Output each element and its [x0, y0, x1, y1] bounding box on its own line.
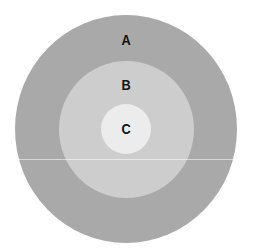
label-b: B	[113, 77, 139, 93]
label-a: A	[113, 32, 139, 48]
label-c: C	[113, 121, 139, 137]
scan-artifact-line	[18, 159, 236, 160]
